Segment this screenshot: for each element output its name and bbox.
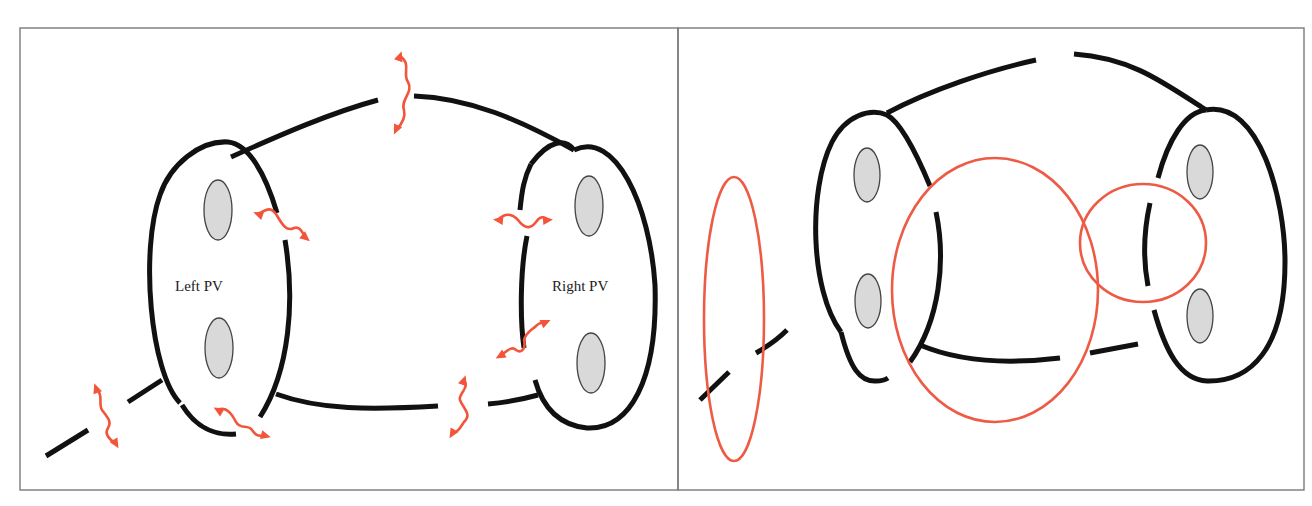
atrial-wall-segment — [276, 394, 438, 408]
atrial-wall-segment — [910, 212, 940, 362]
atrial-wall-segment — [531, 143, 574, 164]
atrial-wall-segment — [756, 330, 787, 353]
right-panel-walls — [700, 54, 1285, 400]
arrowhead-icon — [299, 231, 312, 244]
arrowhead-icon — [260, 430, 272, 441]
atrial-wall-segment — [887, 60, 1036, 113]
wavy-arrow-icon — [396, 56, 410, 130]
wavy-arrow-icon — [96, 388, 116, 444]
vein-ostium — [1187, 289, 1213, 343]
arrowhead-icon — [446, 427, 459, 440]
wavy-arrow-icon — [258, 209, 306, 238]
arrowhead-icon — [540, 316, 553, 328]
vein-ostium — [204, 180, 232, 240]
left-panel-border — [20, 28, 678, 490]
left-pv-label: Left PV — [175, 278, 223, 294]
atrial-wall-segment — [520, 164, 531, 210]
atrial-wall-segment — [1074, 54, 1206, 110]
wavy-arrow-icon — [498, 215, 548, 227]
right-panel — [678, 28, 1304, 490]
atrial-wall-segment — [260, 240, 290, 417]
atrial-wall-segment — [920, 345, 1060, 361]
pulmonary-vein-isolation-diagram: Left PV Right PV — [0, 0, 1312, 506]
atrial-wall-segment — [521, 236, 527, 348]
atrial-wall-segment — [1154, 109, 1285, 381]
vein-ostium — [205, 318, 233, 378]
atrial-wall-segment — [488, 395, 538, 404]
gap-ring — [704, 177, 764, 461]
left-panel-walls — [46, 96, 655, 456]
atrial-wall-segment — [841, 332, 888, 381]
gap-ring — [892, 158, 1098, 422]
left-panel-veins — [204, 176, 605, 393]
vein-ostium — [855, 274, 881, 328]
vein-ostium — [854, 148, 880, 202]
arrowhead-icon — [493, 215, 504, 225]
right-pv-label: Right PV — [552, 278, 608, 294]
atrial-wall-segment — [46, 430, 88, 456]
atrial-wall-segment — [1090, 344, 1138, 353]
atrial-wall-segment — [700, 372, 729, 400]
arrowhead-icon — [252, 208, 264, 220]
vein-ostium — [1187, 145, 1213, 199]
atrial-wall-segment — [182, 405, 236, 434]
left-panel: Left PV Right PV — [20, 28, 678, 490]
vein-ostium — [577, 333, 605, 393]
wavy-arrow-icon — [452, 380, 467, 434]
arrowhead-icon — [543, 215, 554, 225]
atrial-wall-segment — [231, 100, 378, 157]
gap-highlight-rings — [704, 158, 1206, 461]
atrial-wall-segment — [1145, 203, 1150, 286]
atrial-wall-segment — [128, 380, 162, 402]
arrowhead-icon — [458, 374, 470, 386]
atrial-wall-segment — [414, 96, 574, 150]
arrowhead-icon — [211, 404, 224, 417]
vein-ostium — [575, 176, 603, 236]
